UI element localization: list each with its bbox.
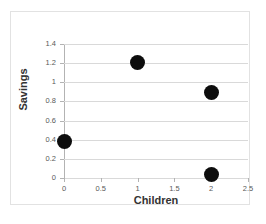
y-axis-tick-label: 0.8 — [25, 98, 56, 106]
y-axis-tick-label: 1 — [25, 79, 56, 87]
x-axis-title: Children — [64, 195, 248, 206]
y-axis-tick-label: 0.6 — [25, 117, 56, 125]
data-point — [204, 167, 219, 182]
x-axis-tick — [174, 178, 175, 182]
x-axis-tick-label: 2 — [209, 185, 213, 193]
gridline-horizontal — [64, 101, 248, 102]
plot-area — [64, 44, 248, 178]
data-point — [57, 134, 72, 149]
x-axis-tick-label: 0 — [62, 185, 66, 193]
y-axis-line — [64, 44, 65, 178]
data-point — [130, 55, 145, 70]
y-axis-tick — [60, 82, 64, 83]
gridline-horizontal — [64, 159, 248, 160]
y-axis-tick-label: 1.4 — [25, 40, 56, 48]
gridline-horizontal — [64, 44, 248, 45]
y-axis-tick-label: 1.2 — [25, 59, 56, 67]
x-axis-tick — [138, 178, 139, 182]
gridline-horizontal — [64, 140, 248, 141]
gridline-horizontal — [64, 178, 248, 179]
gridline-horizontal — [64, 63, 248, 64]
y-axis-tick-label: 0 — [25, 174, 56, 182]
y-axis-tick — [60, 44, 64, 45]
y-axis-title: Savings — [18, 50, 29, 130]
data-point — [204, 85, 219, 100]
y-axis-tick-label: 0.2 — [25, 155, 56, 163]
y-axis-tick — [60, 159, 64, 160]
y-axis-tick — [60, 63, 64, 64]
y-axis-tick — [60, 121, 64, 122]
x-axis-tick-label: 2.5 — [243, 185, 253, 193]
gridline-horizontal — [64, 82, 248, 83]
y-axis-tick-label: 0.4 — [25, 136, 56, 144]
gridline-horizontal — [64, 121, 248, 122]
y-axis-tick — [60, 101, 64, 102]
x-axis-tick-label: 1.5 — [169, 185, 179, 193]
x-axis-tick-label: 1 — [136, 185, 140, 193]
chart-frame: 00.20.40.60.811.21.4 00.511.522.5 Childr… — [10, 11, 250, 205]
x-axis-tick — [64, 178, 65, 182]
x-axis-tick — [248, 178, 249, 182]
x-axis-tick — [101, 178, 102, 182]
x-axis-tick-label: 0.5 — [96, 185, 106, 193]
